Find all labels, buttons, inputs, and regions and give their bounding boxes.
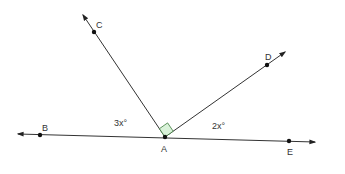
geometry-diagram: A B C D E 3x° 2x° bbox=[0, 0, 345, 174]
point-a bbox=[163, 135, 167, 139]
label-c: C bbox=[96, 20, 103, 30]
label-e: E bbox=[287, 147, 293, 157]
point-d bbox=[265, 63, 269, 67]
angle-label-cab: 3x° bbox=[114, 118, 128, 128]
point-c bbox=[92, 30, 96, 34]
point-e bbox=[287, 139, 291, 143]
label-b: B bbox=[42, 123, 48, 133]
right-angle-marker bbox=[159, 123, 173, 137]
label-d: D bbox=[265, 52, 272, 62]
point-b bbox=[38, 133, 42, 137]
angle-label-dae: 2x° bbox=[212, 121, 226, 131]
label-a: A bbox=[161, 144, 167, 154]
